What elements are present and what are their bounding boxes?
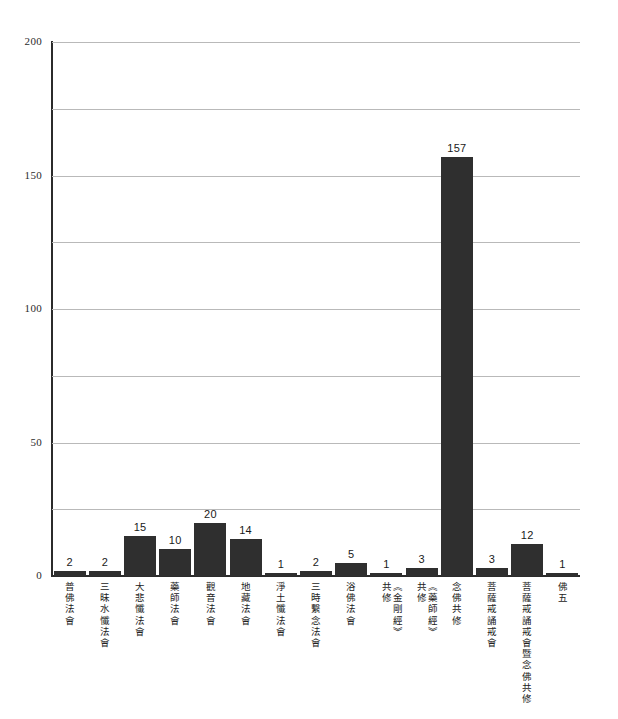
x-axis-category-label: 念佛共修 (451, 582, 462, 714)
x-axis-category-label: 淨土懺法會 (275, 582, 286, 714)
bar-value-label: 1 (261, 558, 301, 570)
y-axis-tick-label: 150 (8, 169, 42, 181)
y-axis-tick-label: 0 (8, 569, 42, 581)
category-label-segment: 大悲懺法會 (134, 582, 145, 714)
bar-value-label: 3 (472, 553, 512, 565)
bar-value-label: 2 (85, 556, 125, 568)
bar[interactable] (159, 549, 191, 576)
category-label-segment: 菩薩戒誦戒會暨念佛共修 (521, 582, 532, 714)
bar[interactable] (335, 563, 367, 576)
category-label-segment: 普佛法會 (64, 582, 75, 714)
bars-container (52, 42, 580, 576)
bar[interactable] (89, 571, 121, 576)
x-axis-category-label: 菩薩戒誦戒會暨念佛共修 (521, 582, 532, 714)
category-label-segment: 藥師法會 (169, 582, 180, 714)
x-axis-category-label: 佛五 (556, 582, 567, 714)
bar-value-label: 5 (331, 548, 371, 560)
x-axis-category-label: 《藥師經》共修 (416, 582, 438, 714)
category-label-segment: 三時繫念法會 (310, 582, 321, 714)
category-label-segment: 浴佛法會 (345, 582, 356, 714)
bar[interactable] (406, 568, 438, 576)
category-label-segment: 《金剛經》 (392, 582, 403, 714)
bar[interactable] (511, 544, 543, 576)
bar-value-label: 10 (155, 534, 195, 546)
y-axis-tick-label: 100 (8, 302, 42, 314)
x-axis-category-label: 地藏法會 (240, 582, 251, 714)
bar-value-label: 15 (120, 521, 160, 533)
bar[interactable] (230, 539, 262, 576)
bar-value-label: 3 (402, 553, 442, 565)
bar-value-label: 12 (507, 529, 547, 541)
y-axis-tick-label: 50 (8, 436, 42, 448)
category-label-segment: 三昧水懺法會 (99, 582, 110, 714)
bar-value-label: 20 (190, 508, 230, 520)
bar[interactable] (370, 573, 402, 576)
x-axis-category-label: 三時繫念法會 (310, 582, 321, 714)
x-axis-category-label: 三昧水懺法會 (99, 582, 110, 714)
category-label-segment: 菩薩戒誦戒會 (486, 582, 497, 714)
category-label-segment: 觀音法會 (204, 582, 215, 714)
bar[interactable] (54, 571, 86, 576)
x-axis-category-label: 菩薩戒誦戒會 (486, 582, 497, 714)
bar[interactable] (546, 573, 578, 576)
x-axis-category-label: 藥師法會 (169, 582, 180, 714)
bar[interactable] (476, 568, 508, 576)
bar[interactable] (265, 573, 297, 576)
bar[interactable] (124, 536, 156, 576)
category-label-segment: 共修 (416, 582, 427, 714)
category-label-segment: 佛五 (556, 582, 567, 714)
category-label-segment: 《藥師經》 (427, 582, 438, 714)
x-axis-category-label: 浴佛法會 (345, 582, 356, 714)
bar-chart: 050100150200 2215102014125131573121 普佛法會… (0, 0, 618, 719)
bar-value-label: 1 (542, 558, 582, 570)
bar-value-label: 2 (296, 556, 336, 568)
x-axis-category-label: 觀音法會 (204, 582, 215, 714)
x-axis-category-label: 大悲懺法會 (134, 582, 145, 714)
category-label-segment: 地藏法會 (240, 582, 251, 714)
bar-value-label: 2 (50, 556, 90, 568)
bar[interactable] (194, 523, 226, 576)
bar-value-label: 14 (226, 524, 266, 536)
category-label-segment: 念佛共修 (451, 582, 462, 714)
y-axis-tick-label: 200 (8, 35, 42, 47)
x-axis-category-label: 《金剛經》共修 (380, 582, 402, 714)
category-label-segment: 共修 (380, 582, 391, 714)
category-label-segment: 淨土懺法會 (275, 582, 286, 714)
x-axis-category-label: 普佛法會 (64, 582, 75, 714)
bar[interactable] (441, 157, 473, 576)
bar-value-label: 157 (437, 142, 477, 154)
bar-value-label: 1 (366, 558, 406, 570)
bar[interactable] (300, 571, 332, 576)
